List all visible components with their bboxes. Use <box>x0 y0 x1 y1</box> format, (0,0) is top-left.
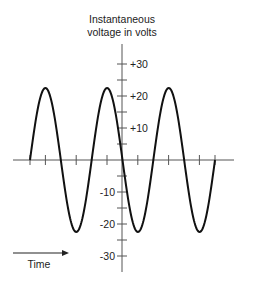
ytick-label-m30: -30 <box>100 250 115 262</box>
chart-title-line2: voltage in volts <box>87 26 156 38</box>
ytick-label-m10: -10 <box>100 186 115 198</box>
ytick-label-p30: +30 <box>130 58 148 70</box>
ytick-label-m20: -20 <box>100 218 115 230</box>
time-arrow <box>13 250 69 256</box>
ytick-label-p20: +20 <box>130 90 148 102</box>
chart-title-line1: Instantaneous <box>89 13 155 25</box>
time-label: Time <box>28 258 51 270</box>
ytick-label-p10: +10 <box>130 122 148 134</box>
sine-wave-chart: Instantaneous voltage in volts +30 +20 +… <box>0 0 254 283</box>
